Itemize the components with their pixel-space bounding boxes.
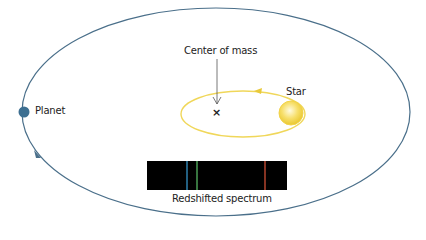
- star: [279, 101, 303, 125]
- planet: [19, 107, 30, 118]
- center-of-mass-label: Center of mass: [184, 45, 257, 56]
- spectrum-box: [147, 161, 287, 190]
- center-of-mass-marker-icon: ×: [212, 106, 221, 119]
- planet-label: Planet: [35, 105, 65, 116]
- planet-orbit-arrow-icon: [34, 150, 41, 158]
- spectrum-label: Redshifted spectrum: [172, 193, 272, 204]
- star-label: Star: [286, 86, 306, 97]
- star-orbit-arrow-icon: [254, 88, 262, 94]
